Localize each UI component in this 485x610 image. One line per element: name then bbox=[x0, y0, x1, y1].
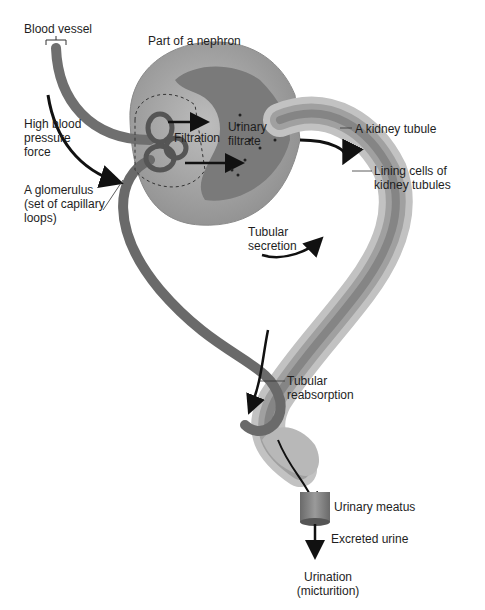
label-glomerulus: A glomerulus (set of capillary loops) bbox=[24, 183, 114, 225]
label-urinary-meatus: Urinary meatus bbox=[334, 500, 415, 514]
nephron-diagram bbox=[0, 0, 485, 610]
label-tubular-secretion: Tubular secretion bbox=[248, 225, 318, 253]
label-excreted-urine: Excreted urine bbox=[331, 532, 408, 546]
label-urinary-filtrate: Urinary filtrate bbox=[228, 120, 278, 148]
collecting-duct bbox=[262, 427, 319, 476]
urinary-meatus bbox=[300, 492, 330, 522]
label-blood-vessel: Blood vessel bbox=[24, 22, 92, 36]
label-high-blood-pressure: High blood pressure force bbox=[24, 117, 84, 159]
tubule-flow-arrow bbox=[300, 140, 346, 160]
label-filtration: Filtration bbox=[174, 131, 220, 145]
label-lining-cells: Lining cells of kidney tubules bbox=[374, 164, 484, 192]
label-urination: Urination (micturition) bbox=[283, 570, 373, 598]
label-tubular-reabsorption: Tubular reabsorption bbox=[287, 374, 372, 402]
label-part-of-nephron: Part of a nephron bbox=[148, 34, 241, 48]
label-kidney-tubule: A kidney tubule bbox=[355, 122, 436, 136]
